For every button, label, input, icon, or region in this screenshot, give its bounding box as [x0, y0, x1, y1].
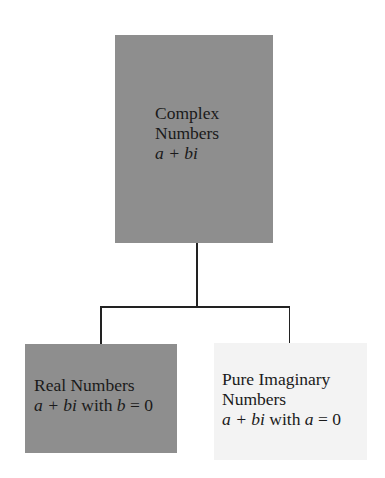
complex-title-line1: Complex — [155, 103, 219, 123]
real-formula: a + bi with b = 0 — [34, 395, 153, 415]
imaginary-title-line2: Numbers — [222, 389, 341, 409]
pure-imaginary-label: Pure Imaginary Numbers a + bi with a = 0 — [222, 369, 341, 429]
connector-trunk — [196, 243, 198, 307]
complex-formula: a + bi — [155, 143, 198, 163]
real-title: Real Numbers — [34, 375, 153, 395]
imaginary-formula: a + bi with a = 0 — [222, 409, 341, 429]
complex-title-line2: Numbers — [155, 123, 219, 143]
complex-numbers-label: Complex Numbers a + bi — [155, 103, 219, 163]
connector-left-branch — [100, 306, 102, 344]
connector-horizontal — [100, 306, 290, 308]
connector-right-branch — [289, 306, 291, 343]
imaginary-title-line1: Pure Imaginary — [222, 369, 341, 389]
real-numbers-label: Real Numbers a + bi with b = 0 — [34, 375, 153, 415]
